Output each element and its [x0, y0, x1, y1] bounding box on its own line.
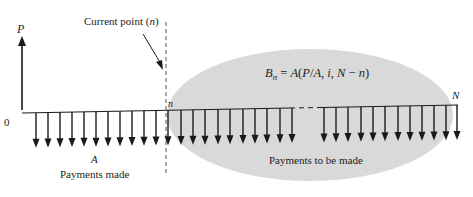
arrow-down-icon — [57, 138, 64, 147]
y-axis-arrow-icon — [18, 36, 26, 46]
n-label: n — [168, 98, 173, 109]
N-label: N — [451, 89, 460, 101]
arrow-down-icon — [33, 139, 40, 148]
arrow-down-icon — [117, 137, 124, 146]
current-point-pointer-arrow-icon — [156, 60, 163, 70]
arrow-down-icon — [105, 137, 112, 146]
current-point-pointer — [143, 34, 161, 64]
arrow-down-icon — [129, 137, 136, 146]
balance-formula: Bn = A(P/A, i, N − n) — [265, 66, 369, 82]
payments-to-be-made-label: Payments to be made — [269, 154, 363, 166]
arrow-down-icon — [141, 137, 148, 146]
arrow-down-icon — [93, 138, 100, 147]
payments-made-label: Payments made — [60, 168, 129, 180]
arrow-down-icon — [45, 139, 52, 148]
cash-flow-diagram: P 0 Current point (n) n N Bn = A(P/A, i,… — [0, 0, 473, 197]
arrow-down-icon — [81, 138, 88, 147]
payment-symbol: A — [90, 153, 98, 165]
arrow-down-icon — [69, 138, 76, 147]
current-point-label: Current point (n) — [84, 15, 159, 28]
y-axis-label: P — [16, 22, 25, 36]
arrow-down-icon — [454, 131, 461, 140]
arrow-down-icon — [153, 137, 160, 146]
origin-label: 0 — [4, 116, 10, 128]
